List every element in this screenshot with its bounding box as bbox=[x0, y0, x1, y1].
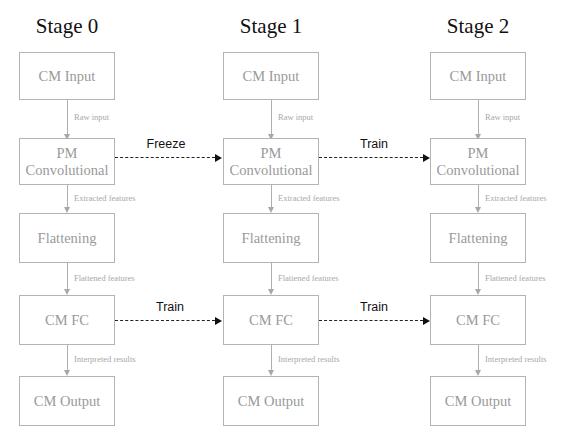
stage-2-cm-fc-box: CM FC bbox=[430, 295, 526, 345]
stage-1-flow-label: Raw input bbox=[278, 112, 313, 122]
stage-0-flow-line bbox=[67, 344, 68, 371]
stage-1-cm-fc-box: CM FC bbox=[223, 295, 319, 345]
stage-0-flow-label: Flattened features bbox=[74, 273, 135, 283]
stage-2-flow-line bbox=[478, 344, 479, 371]
stage-2-cm-output-box: CM Output bbox=[430, 376, 526, 426]
stage-2-flow-label: Raw input bbox=[485, 112, 520, 122]
stage-2-flow-label: Flattened features bbox=[485, 273, 546, 283]
transfer-arrow-line bbox=[319, 157, 423, 158]
arrow-right-icon bbox=[215, 317, 222, 325]
stage-2-pm-conv-box: PM Convolutional bbox=[430, 138, 526, 185]
stage-2-title: Stage 2 bbox=[418, 14, 538, 39]
stage-0-title: Stage 0 bbox=[7, 14, 127, 39]
stage-0-flow-label: Interpreted results bbox=[74, 354, 136, 364]
stage-1-flow-label: Flattened features bbox=[278, 273, 339, 283]
stage-1-flow-line bbox=[271, 344, 272, 371]
stage-1-flow-line bbox=[271, 100, 272, 135]
arrow-right-icon bbox=[215, 154, 222, 162]
transfer-arrow-line bbox=[115, 320, 215, 321]
stage-0-pm-conv-box: PM Convolutional bbox=[19, 138, 115, 185]
transfer-label: Train bbox=[140, 300, 200, 314]
stage-1-cm-output-box: CM Output bbox=[223, 376, 319, 426]
stage-2-flattening-box: Flattening bbox=[430, 213, 526, 263]
stage-2-flow-line bbox=[478, 184, 479, 208]
stage-1-flow-label: Extracted features bbox=[278, 193, 340, 203]
transfer-arrow-line bbox=[319, 320, 423, 321]
stage-0-cm-output-box: CM Output bbox=[19, 376, 115, 426]
stage-2-flow-label: Interpreted results bbox=[485, 354, 547, 364]
stage-0-flow-label: Extracted features bbox=[74, 193, 136, 203]
stage-0-flattening-box: Flattening bbox=[19, 213, 115, 263]
stage-0-cm-input-box: CM Input bbox=[19, 52, 115, 100]
stage-2-flow-line bbox=[478, 100, 479, 135]
stage-1-pm-conv-box: PM Convolutional bbox=[223, 138, 319, 185]
transfer-label: Train bbox=[344, 137, 404, 151]
stage-0-flow-line bbox=[67, 184, 68, 208]
stage-1-flow-line bbox=[271, 262, 272, 290]
stage-1-flow-line bbox=[271, 184, 272, 208]
stage-1-flattening-box: Flattening bbox=[223, 213, 319, 263]
stage-2-cm-input-box: CM Input bbox=[430, 52, 526, 100]
stage-1-flow-label: Interpreted results bbox=[278, 354, 340, 364]
stage-2-flow-line bbox=[478, 262, 479, 290]
transfer-arrow-line bbox=[115, 157, 215, 158]
transfer-label: Freeze bbox=[136, 137, 196, 151]
arrow-right-icon bbox=[423, 154, 430, 162]
stage-1-cm-input-box: CM Input bbox=[223, 52, 319, 100]
arrow-right-icon bbox=[423, 317, 430, 325]
stage-2-flow-label: Extracted features bbox=[485, 193, 547, 203]
stage-0-cm-fc-box: CM FC bbox=[19, 295, 115, 345]
stage-0-flow-line bbox=[67, 100, 68, 135]
transfer-label: Train bbox=[344, 300, 404, 314]
stage-0-flow-label: Raw input bbox=[74, 112, 109, 122]
stage-1-title: Stage 1 bbox=[211, 14, 331, 39]
stage-0-flow-line bbox=[67, 262, 68, 290]
